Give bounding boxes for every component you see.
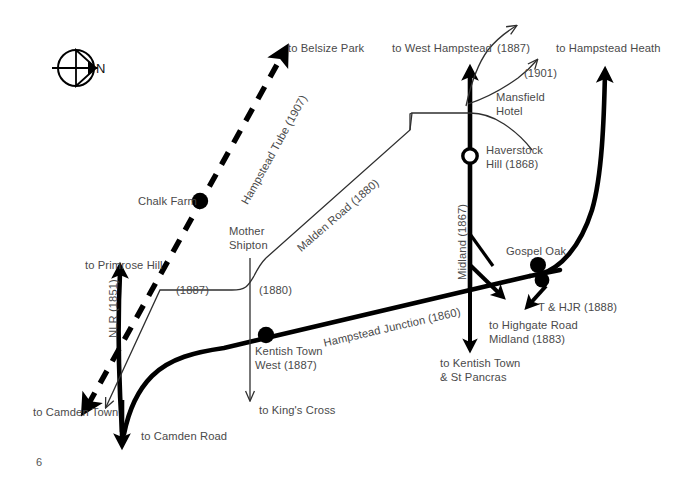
- destination-west-hampstead: to West Hampstead: [392, 41, 492, 55]
- compass-icon: [52, 50, 97, 86]
- station-label-kentish-town-west: Kentish Town West (1887): [255, 344, 323, 373]
- destination-hampstead-heath: to Hampstead Heath: [556, 41, 661, 55]
- station-label-gospel-oak: Gospel Oak: [506, 244, 566, 258]
- destination-camden-town: to Camden Town: [33, 405, 118, 419]
- line-label-1901: (1901): [524, 66, 557, 80]
- compass-label-north: N: [96, 61, 106, 78]
- page-number: 6: [36, 455, 42, 469]
- line-label-1887-west: (1887): [176, 283, 209, 297]
- line-label-nlr: NLR (1851): [106, 279, 120, 338]
- line-midland-spur-upper: [470, 234, 493, 266]
- destination-belsize-park: to Belsize Park: [288, 41, 364, 55]
- station-label-chalk-farm: Chalk Farm: [138, 194, 197, 208]
- destination-highgate-road-midland: to Highgate Road Midland (1883): [489, 318, 578, 347]
- line-label-t-and-hjr: T & HJR (1888): [538, 300, 617, 314]
- destination-primrose-hill: to Primrose Hill: [85, 258, 163, 272]
- destination-kings-cross: to King's Cross: [259, 403, 336, 417]
- destination-kentish-town-st-pancras: to Kentish Town & St Pancras: [440, 356, 520, 385]
- station-dot-haverstock-hill: [463, 149, 477, 163]
- station-dot-gospel-oak-lower: [535, 273, 550, 288]
- station-label-haverstock-hill: Haverstock Hill (1868): [486, 143, 543, 172]
- line-label-1887-north: (1887): [497, 41, 530, 55]
- station-dot-kentish-town-west: [258, 327, 274, 343]
- line-label-1880: (1880): [259, 283, 292, 297]
- railway-diagram: N to Belsize Park Hampstead Tube (1907) …: [0, 0, 684, 478]
- station-dot-gospel-oak-upper: [530, 257, 546, 273]
- station-label-mother-shipton: Mother Shipton: [229, 224, 268, 253]
- station-label-mansfield-hotel: Mansfield Hotel: [496, 90, 545, 119]
- destination-camden-road: to Camden Road: [141, 429, 227, 443]
- line-label-midland: Midland (1867): [455, 204, 469, 280]
